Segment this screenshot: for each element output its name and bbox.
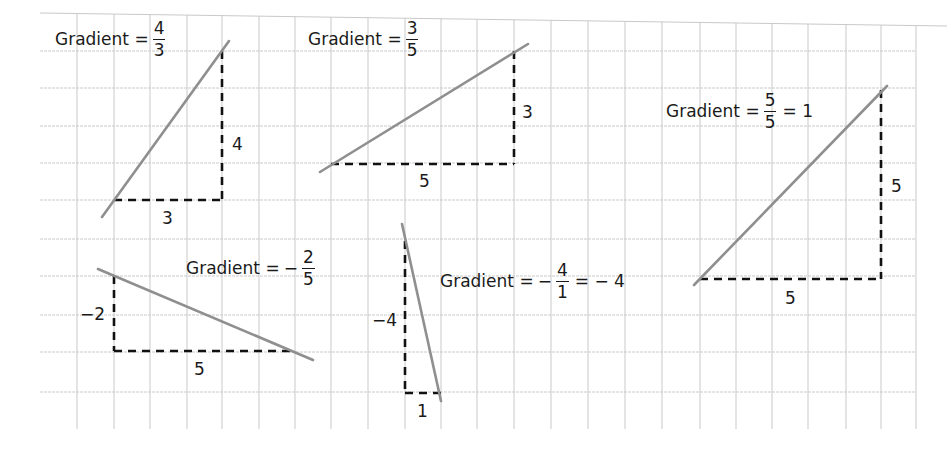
- run-label: 5: [194, 361, 205, 378]
- run-label: 5: [785, 290, 796, 307]
- gradient-result: = 1: [782, 103, 812, 120]
- fraction-denominator: 5: [406, 42, 419, 59]
- gradient-line: [102, 41, 229, 217]
- gradient-equation-4: Gradient = − 2 5: [186, 249, 319, 288]
- fraction-denominator: 3: [153, 42, 166, 59]
- minus-sign: −: [284, 260, 298, 277]
- gradient-equation-3: Gradient = 5 5 = 1: [666, 92, 813, 131]
- gradient-equation-5: Gradient = − 4 1 = − 4: [440, 262, 625, 301]
- run-label: 1: [417, 403, 428, 420]
- gradient-equation-2: Gradient = 3 5: [308, 20, 422, 59]
- fraction-denominator: 5: [302, 271, 315, 288]
- gradient-word: Gradient =: [440, 273, 534, 290]
- gradient-line: [402, 224, 441, 401]
- fraction: 2 5: [302, 249, 315, 288]
- fraction: 3 5: [406, 20, 419, 59]
- minus-sign: −: [538, 273, 552, 290]
- gradient-word: Gradient =: [666, 103, 760, 120]
- rise-label: 4: [232, 136, 243, 153]
- fraction: 4 1: [556, 262, 569, 301]
- grid-top-edge: [40, 13, 947, 26]
- grid: [40, 13, 947, 429]
- run-label: 3: [162, 210, 173, 227]
- gradient-diagram: [0, 0, 947, 458]
- gradient-word: Gradient =: [186, 260, 280, 277]
- gradient-word: Gradient =: [308, 31, 402, 48]
- fraction-numerator: 4: [556, 262, 569, 279]
- fraction-denominator: 5: [764, 114, 777, 131]
- gradient-word: Gradient =: [55, 31, 149, 48]
- rise-label: 5: [891, 178, 902, 195]
- fraction-numerator: 5: [764, 92, 777, 109]
- fraction: 4 3: [153, 20, 166, 59]
- rise-label: 3: [522, 104, 533, 121]
- fraction: 5 5: [764, 92, 777, 131]
- run-label: 5: [419, 173, 430, 190]
- rise-label: −2: [80, 306, 105, 323]
- fraction-numerator: 4: [153, 20, 166, 37]
- gradient-result: = − 4: [575, 273, 625, 290]
- fraction-numerator: 3: [406, 20, 419, 37]
- fraction-numerator: 2: [302, 249, 315, 266]
- fraction-denominator: 1: [556, 284, 569, 301]
- rise-label: −4: [372, 312, 397, 329]
- gradient-equation-1: Gradient = 4 3: [55, 20, 169, 59]
- gradient-line: [320, 44, 528, 172]
